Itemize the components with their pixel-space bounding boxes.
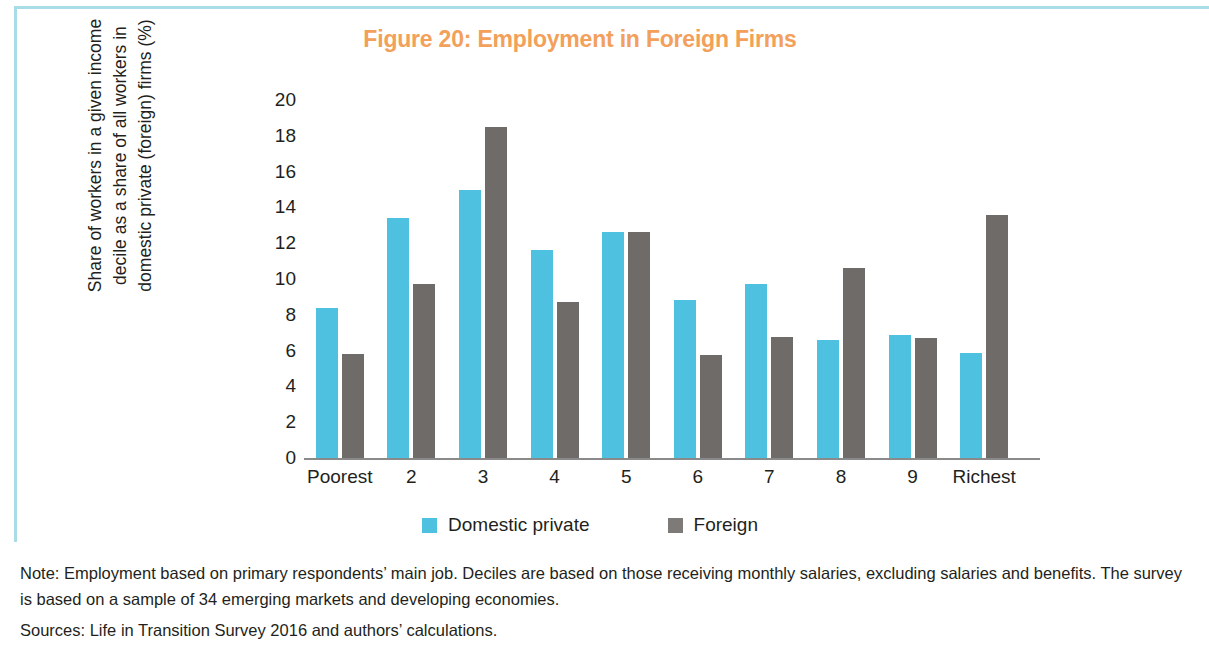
bar [342, 354, 364, 458]
x-axis-tick-label: Richest [953, 466, 1016, 488]
bar-group [948, 100, 1020, 458]
bar-group [877, 100, 949, 458]
bar [674, 300, 696, 458]
x-axis-tick-label: Poorest [307, 466, 372, 488]
y-axis-tick-6: 6 [256, 340, 296, 362]
bar [459, 190, 481, 459]
y-axis-title-line: Share of workers in a given income [83, 0, 108, 321]
y-axis-tick-2: 2 [256, 411, 296, 433]
x-axis-tick-label: 5 [621, 466, 632, 488]
bar [986, 215, 1008, 458]
legend-label: Domestic private [448, 514, 590, 536]
bar [485, 127, 507, 458]
bar [700, 355, 722, 458]
x-axis-tick-label: 9 [907, 466, 918, 488]
y-axis-tick-14: 14 [256, 196, 296, 218]
y-axis-tick-20: 20 [256, 89, 296, 111]
sources-text: Sources: Life in Transition Survey 2016 … [20, 617, 1195, 643]
legend-entry: Foreign [668, 514, 758, 536]
x-axis-tick-label: 4 [549, 466, 560, 488]
bar [817, 340, 839, 458]
y-axis-tick-18: 18 [256, 125, 296, 147]
legend-entry: Domestic private [422, 514, 590, 536]
bar [745, 284, 767, 458]
bar [531, 250, 553, 458]
note-text: Note: Employment based on primary respon… [20, 560, 1195, 612]
bar-group [519, 100, 591, 458]
bar [316, 308, 338, 458]
y-axis-tick-10: 10 [256, 268, 296, 290]
bar [843, 268, 865, 458]
y-axis-tick-4: 4 [256, 375, 296, 397]
footnotes: Note: Employment based on primary respon… [20, 560, 1195, 643]
bar [771, 337, 793, 458]
legend-label: Foreign [694, 514, 758, 536]
legend-swatch-icon [422, 518, 437, 533]
bar-group [447, 100, 519, 458]
bar [413, 284, 435, 458]
legend-swatch-icon [668, 518, 683, 533]
bar [889, 335, 911, 459]
bar [960, 353, 982, 458]
y-axis-tick-8: 8 [256, 304, 296, 326]
bar [557, 302, 579, 458]
x-axis-tick-label: 2 [406, 466, 417, 488]
y-axis-title: Share of workers in a given incomedecile… [83, 0, 158, 321]
y-axis-tick-12: 12 [256, 232, 296, 254]
x-axis-tick-label: 6 [693, 466, 704, 488]
bar-group [590, 100, 662, 458]
bar [602, 232, 624, 458]
y-axis-title-line: domestic private (foreign) firms (%) [133, 0, 158, 321]
bar-group [304, 100, 376, 458]
y-axis-tick-0: 0 [256, 447, 296, 469]
chart-legend: Domestic privateForeign [0, 514, 1180, 536]
bar [387, 218, 409, 458]
x-axis-tick-label: 7 [764, 466, 775, 488]
plot-area [304, 100, 1020, 458]
bar-group [662, 100, 734, 458]
y-axis-title-line: decile as a share of all workers in [108, 0, 133, 321]
bar-group [376, 100, 448, 458]
y-axis-tick-16: 16 [256, 161, 296, 183]
figure-title: Figure 20: Employment in Foreign Firms [0, 26, 1160, 53]
bar [915, 338, 937, 458]
x-axis-tick-label: 3 [478, 466, 489, 488]
bar [628, 232, 650, 458]
bar-group [805, 100, 877, 458]
x-axis-line [304, 458, 1040, 460]
y-axis-tick-labels: 02468101214161820 [252, 100, 296, 458]
x-axis-tick-label: 8 [836, 466, 847, 488]
bar-group [734, 100, 806, 458]
